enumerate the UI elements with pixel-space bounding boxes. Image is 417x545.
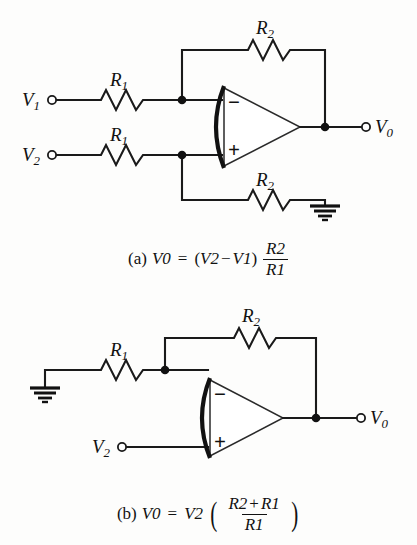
caption-a-lhs: V0 xyxy=(152,249,171,269)
resistor-a-r2-feedback-symbol xyxy=(242,40,296,60)
junction-dot-b-output xyxy=(312,414,321,423)
caption-a-group: (V2−V1) xyxy=(194,249,257,269)
terminal-b-v0[interactable] xyxy=(357,414,365,422)
label-r2-b: R2 xyxy=(242,306,260,329)
caption-b-equals: = xyxy=(166,504,180,524)
label-v2-a: V2 xyxy=(22,145,40,168)
label-v2-b: V2 xyxy=(92,437,110,460)
opamp-b-noninverting-sign: + xyxy=(214,432,226,453)
terminal-a-v0[interactable] xyxy=(362,123,370,131)
terminal-a-v2[interactable] xyxy=(48,151,56,159)
caption-b-lhs: V0 xyxy=(142,504,161,524)
circuit-b-group xyxy=(30,328,365,458)
caption-b-paren-open: ( xyxy=(210,500,217,529)
terminal-b-v2[interactable] xyxy=(118,443,126,451)
label-v1: V1 xyxy=(22,90,40,113)
terminal-a-v1[interactable] xyxy=(48,96,56,104)
caption-a-tag: (a) xyxy=(128,249,147,269)
label-v0-a: V0 xyxy=(375,117,393,140)
circuit-a-group xyxy=(48,40,370,220)
caption-a-fraction: R2 R1 xyxy=(263,240,288,279)
wire-b-feedback-right-descender xyxy=(282,338,316,418)
label-r1-b: R1 xyxy=(110,340,128,363)
opamp-b-inverting-sign: − xyxy=(214,384,226,405)
label-r2-ground-a: R2 xyxy=(256,170,274,193)
wire-b-feedback-left-riser xyxy=(165,338,228,370)
opamp-a-noninverting-sign: + xyxy=(228,140,240,161)
junction-dot-a-noninverting xyxy=(178,151,187,160)
wire-feedback-right-descender xyxy=(296,50,325,127)
caption-b-multiplier: V2 xyxy=(184,504,203,524)
label-r1-top-a: R1 xyxy=(110,70,128,93)
label-r1-bottom-a: R1 xyxy=(110,125,128,148)
caption-b-paren-close: ) xyxy=(291,500,298,529)
ground-symbol-a xyxy=(310,206,340,220)
junction-dot-a-output xyxy=(321,123,330,132)
figure-root: V1 V2 V0 R1 R1 R2 R2 − + V2 V0 R1 R2 − +… xyxy=(0,0,417,545)
caption-b-fraction: R2+R1 R1 xyxy=(225,495,282,534)
label-v0-b: V0 xyxy=(370,408,388,431)
caption-a: (a) V0 = (V2−V1) R2 R1 xyxy=(0,240,417,279)
junction-dot-b-inverting xyxy=(161,366,170,375)
ground-symbol-b xyxy=(30,388,60,402)
wire-b-ground-to-r1 xyxy=(45,370,95,388)
caption-b-tag: (b) xyxy=(117,504,137,524)
caption-a-equals: = xyxy=(176,249,190,269)
resistor-b-r2-feedback-symbol xyxy=(228,328,282,348)
opamp-a-inverting-sign: − xyxy=(228,92,240,113)
caption-b: (b) V0 = V2 ( R2+R1 R1 ) xyxy=(0,495,417,534)
junction-dot-a-inverting xyxy=(178,96,187,105)
label-r2-feedback-a: R2 xyxy=(256,18,274,41)
